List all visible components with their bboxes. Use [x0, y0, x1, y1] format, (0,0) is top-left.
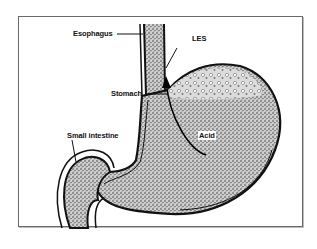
les-leader [166, 48, 177, 68]
les-label: LES [192, 34, 206, 43]
small-intestine-leader [72, 140, 76, 162]
esophagus-shape [140, 24, 165, 96]
acid-label: Acid [198, 131, 216, 140]
esophagus-label: Esophagus [73, 29, 113, 38]
stomach-label: Stomach [111, 89, 142, 98]
stomach-shape [96, 64, 280, 214]
stomach-illustration [0, 0, 317, 249]
small-intestine-label: Small intestine [67, 131, 118, 140]
